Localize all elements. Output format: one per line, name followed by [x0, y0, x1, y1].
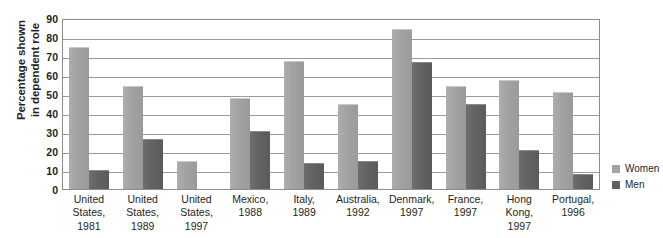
x-tick-label: United States, 1997 [170, 193, 224, 233]
bar-men [412, 62, 432, 189]
bar-men [143, 139, 163, 189]
bar-group [117, 20, 171, 189]
bar-group [332, 20, 386, 189]
bar-group [224, 20, 278, 189]
x-tick-label: Portugal, 1996 [546, 193, 600, 220]
legend-item[interactable]: Women [612, 163, 662, 174]
legend-label: Women [625, 164, 659, 174]
plot-area [62, 19, 600, 190]
x-tick-label: Mexico, 1988 [223, 193, 277, 220]
bar-women [338, 104, 358, 189]
y-tick-label: 30 [34, 128, 58, 139]
bar-men [250, 131, 270, 189]
y-tick-label: 50 [34, 90, 58, 101]
x-tick-label: Hong Kong, 1997 [492, 193, 546, 233]
legend-label: Men [625, 180, 644, 190]
chart-legend: WomenMen [612, 163, 662, 195]
bar-men [304, 163, 324, 189]
y-tick-label: 60 [34, 71, 58, 82]
y-tick-label: 90 [34, 14, 58, 25]
bar-women [446, 86, 466, 189]
y-tick-label: 20 [34, 147, 58, 158]
y-tick-label: 80 [34, 33, 58, 44]
bar-women [553, 92, 573, 189]
bar-women [69, 47, 89, 190]
bar-group [171, 20, 225, 189]
y-axis-tick-labels: 0102030405060708090 [34, 19, 58, 190]
bar-chart: Percentage shown in dependent role 01020… [0, 0, 663, 238]
legend-swatch-icon [612, 165, 620, 173]
x-tick-label: France, 1997 [439, 193, 493, 220]
bar-women [284, 61, 304, 189]
x-tick-label: United States, 1989 [116, 193, 170, 233]
bar-group [278, 20, 332, 189]
x-tick-label: Denmark, 1997 [385, 193, 439, 220]
bar-women [177, 161, 197, 189]
bar-women [499, 80, 519, 189]
y-tick-label: 70 [34, 52, 58, 63]
bars-layer [63, 20, 599, 189]
x-tick-label: United States, 1981 [62, 193, 116, 233]
bar-group [386, 20, 440, 189]
x-tick-label: Italy, 1989 [277, 193, 331, 220]
bar-group [493, 20, 547, 189]
bar-women [230, 98, 250, 189]
y-tick-label: 40 [34, 109, 58, 120]
bar-group [63, 20, 117, 189]
x-tick-label: Australia, 1992 [331, 193, 385, 220]
bar-women [392, 29, 412, 189]
bar-women [123, 86, 143, 189]
y-tick-label: 10 [34, 166, 58, 177]
bar-group [547, 20, 601, 189]
bar-men [573, 174, 593, 189]
bar-men [466, 104, 486, 189]
bar-men [89, 170, 109, 189]
x-axis-tick-labels: United States, 1981United States, 1989Un… [62, 193, 600, 238]
y-tick-label: 0 [34, 185, 58, 196]
legend-swatch-icon [612, 181, 620, 189]
bar-men [519, 150, 539, 189]
bar-men [358, 161, 378, 190]
bar-group [440, 20, 494, 189]
legend-item[interactable]: Men [612, 179, 662, 190]
